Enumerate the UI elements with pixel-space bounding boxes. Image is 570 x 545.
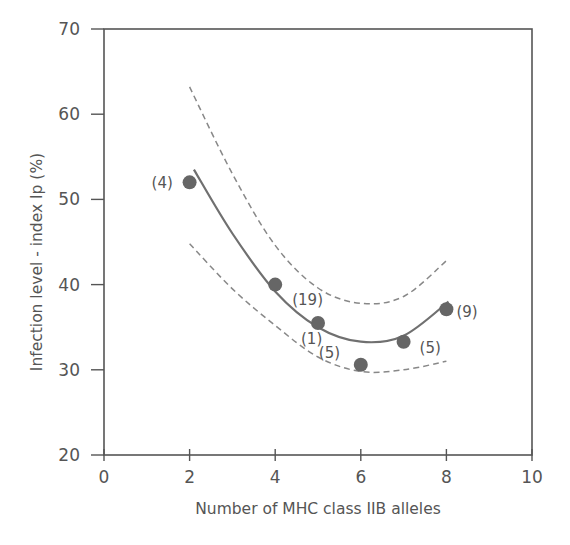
data-point [268, 278, 282, 292]
y-tick-label: 70 [58, 19, 80, 39]
y-tick-label: 60 [58, 104, 80, 124]
x-tick-label: 4 [270, 467, 281, 487]
data-point [183, 175, 197, 189]
confidence-band-line [190, 87, 447, 304]
x-tick-label: 6 [355, 467, 366, 487]
x-tick-label: 2 [184, 467, 195, 487]
x-axis-title: Number of MHC class IIB alleles [195, 500, 441, 518]
chart-canvas: 203040506070 0246810 (4)(19)(1)(5)(5)(9)… [0, 0, 570, 545]
plot-border [104, 29, 532, 455]
data-point [354, 358, 368, 372]
data-points: (4)(19)(1)(5)(5)(9) [152, 174, 478, 371]
fitted-curve [194, 170, 449, 343]
x-tick-label: 0 [99, 467, 110, 487]
data-point [397, 335, 411, 349]
data-point [439, 302, 453, 316]
y-tick-label: 50 [58, 189, 80, 209]
y-tick-label: 30 [58, 360, 80, 380]
y-axis: 203040506070 [58, 19, 104, 465]
sample-size-label: (19) [292, 291, 323, 309]
y-tick-label: 40 [58, 275, 80, 295]
sample-size-label: (5) [319, 344, 340, 362]
x-tick-label: 8 [441, 467, 452, 487]
y-axis-title: Infection level - index Ip (%) [28, 153, 46, 371]
data-point [311, 316, 325, 330]
y-tick-label: 20 [58, 445, 80, 465]
sample-size-label: (4) [152, 174, 173, 192]
sample-size-label: (9) [456, 303, 477, 321]
sample-size-label: (5) [420, 339, 441, 357]
x-tick-label: 10 [521, 467, 543, 487]
plot-frame [104, 29, 532, 455]
